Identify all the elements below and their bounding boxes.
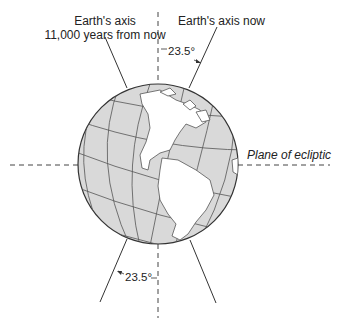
future-axis-label: Earth's axis 11,000 years from now xyxy=(30,14,180,42)
future-axis-label-line1: Earth's axis xyxy=(30,14,180,28)
current-axis-label: Earth's axis now xyxy=(178,14,265,28)
future-axis-line xyxy=(105,37,127,88)
precession-diagram: Earth's axis 11,000 years from now Earth… xyxy=(0,0,338,325)
plane-of-ecliptic-label: Plane of ecliptic xyxy=(247,148,331,162)
future-axis-label-line2: 11,000 years from now xyxy=(30,28,180,42)
angle-label-top: 23.5° xyxy=(168,44,195,58)
angle-label-bottom: 23.5° xyxy=(125,270,152,284)
